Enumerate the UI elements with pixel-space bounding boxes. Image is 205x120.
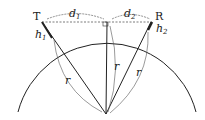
r-arrow-left <box>54 40 102 112</box>
label-h1: h1 <box>35 28 47 42</box>
label-d2: d2 <box>124 7 136 21</box>
label-r-center: r <box>114 60 120 73</box>
label-r-right: r <box>136 66 142 79</box>
earth-curvature-diagram: T R d1 d2 h1 h2 r r r <box>0 0 205 120</box>
label-t: T <box>33 10 41 23</box>
label-r-left: r <box>65 74 71 87</box>
label-h2: h2 <box>156 22 168 36</box>
radius-line-center <box>106 22 107 114</box>
label-d1: d1 <box>69 7 81 21</box>
radius-line-right <box>106 22 151 114</box>
